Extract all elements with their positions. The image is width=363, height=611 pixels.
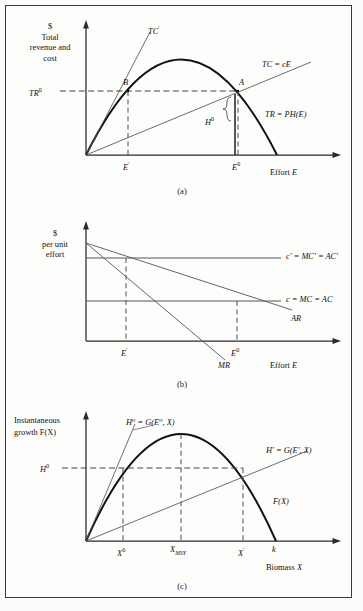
panel-c-x-tick-x0: X0 xyxy=(117,545,125,559)
harvest-line-h-prime xyxy=(86,451,307,541)
panel-c-plot xyxy=(0,0,363,611)
panel-c-x-tick-k: k xyxy=(272,545,276,556)
panel-c-x-tick-x-prime: X′ xyxy=(238,545,244,559)
panel-c-tag: (c) xyxy=(162,581,202,591)
panel-c-y-title: Instantaneous growth F(X) xyxy=(14,415,104,438)
panel-c-y-tick-h0: H0 xyxy=(40,461,49,475)
figure-root: $ Total revenue and cost TR0 E′ E0 B A T… xyxy=(0,0,363,611)
panel-c-growth-curve-label: F(X) xyxy=(273,497,289,508)
panel-c-h0-equation-label: H⁰ = G(E⁰, X) xyxy=(126,418,175,429)
panel-c-axes xyxy=(83,411,341,544)
panel-c-x-title: Biomass X xyxy=(266,563,302,574)
panel-c-h-prime-equation-label: H′ = G(E′, X) xyxy=(266,446,312,457)
panel-c-y-title-l2: growth F(X) xyxy=(14,427,104,439)
panel-c-y-title-l1: Instantaneous xyxy=(14,415,104,427)
panel-c-x-tick-xmsy: XMSY xyxy=(170,545,186,558)
harvest-line-h0 xyxy=(86,424,135,541)
